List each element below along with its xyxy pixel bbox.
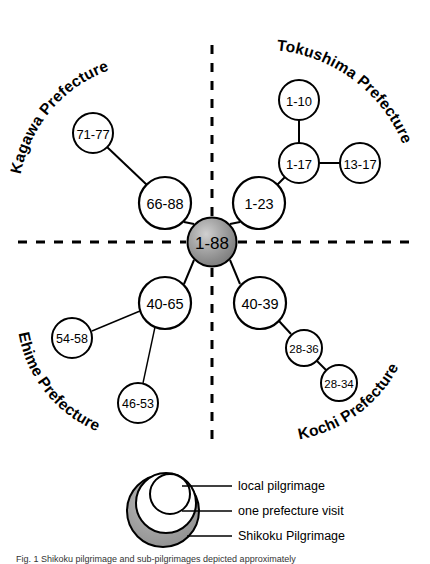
node-54-58[interactable]: 54-58 [52, 318, 92, 358]
node-54-58-label: 54-58 [56, 332, 88, 346]
node-28-34[interactable]: 28-34 [321, 365, 357, 401]
node-66-88-label: 66-88 [146, 196, 183, 212]
node-28-34-label: 28-34 [324, 378, 354, 390]
edge-center-to-1-23 [230, 222, 240, 224]
node-1-17[interactable]: 1-17 [279, 143, 319, 183]
edge-center-to-40-39 [230, 260, 240, 284]
diagram-canvas: 1-88 66-8871-771-231-171-1013-1740-6554-… [0, 0, 430, 564]
legend-item-local-pilgrimage-label: local pilgrimage [238, 479, 325, 493]
legend-items: local pilgrimageone prefecture visitShik… [182, 479, 345, 543]
edge-40-39-to-28-36 [279, 321, 291, 334]
node-28-36-label: 28-36 [289, 343, 318, 355]
edge-40-65-to-46-53 [143, 327, 155, 383]
edge-66-88-to-71-77 [107, 147, 147, 185]
node-71-77[interactable]: 71-77 [73, 113, 113, 153]
edge-center-to-40-65 [184, 260, 194, 284]
edge-28-36-to-28-34 [317, 361, 326, 370]
node-13-17[interactable]: 13-17 [340, 143, 380, 183]
edge-40-65-to-54-58 [92, 311, 140, 331]
legend-group: local pilgrimageone prefecture visitShik… [127, 473, 345, 547]
node-1-23-label: 1-23 [244, 196, 273, 212]
edge-1-23-to-1-17 [277, 177, 285, 185]
legend-item-local-pilgrimage: local pilgrimage [182, 479, 325, 493]
center-node-label: 1-88 [195, 234, 229, 253]
pilgrimage-diagram: 1-88 66-8871-771-231-171-1013-1740-6554-… [0, 0, 430, 564]
legend-item-shikoku-pilgrimage-label: Shikoku Pilgrimage [238, 529, 345, 543]
node-28-36[interactable]: 28-36 [286, 330, 322, 366]
node-40-39-label: 40-39 [241, 296, 278, 312]
node-46-53[interactable]: 46-53 [118, 383, 158, 423]
node-1-10[interactable]: 1-10 [279, 80, 319, 120]
center-node-group[interactable]: 1-88 [188, 218, 237, 267]
legend-item-one-prefecture-visit: one prefecture visit [182, 504, 344, 518]
node-1-10-label: 1-10 [286, 94, 312, 109]
legend-item-shikoku-pilgrimage: Shikoku Pilgrimage [187, 529, 345, 543]
node-40-39[interactable]: 40-39 [234, 277, 286, 329]
legend-item-one-prefecture-visit-label: one prefecture visit [238, 504, 344, 518]
node-46-53-label: 46-53 [122, 397, 154, 411]
edge-center-to-66-88 [184, 222, 194, 224]
node-40-65[interactable]: 40-65 [139, 277, 191, 329]
node-40-65-label: 40-65 [146, 296, 183, 312]
node-1-17-label: 1-17 [286, 157, 312, 172]
node-66-88[interactable]: 66-88 [139, 177, 191, 229]
node-71-77-label: 71-77 [76, 127, 109, 142]
node-1-23[interactable]: 1-23 [233, 177, 285, 229]
node-13-17-label: 13-17 [343, 157, 376, 172]
figure-caption: Fig. 1 Shikoku pilgrimage and sub-pilgri… [16, 554, 296, 564]
legend-inner-circle [150, 474, 190, 514]
